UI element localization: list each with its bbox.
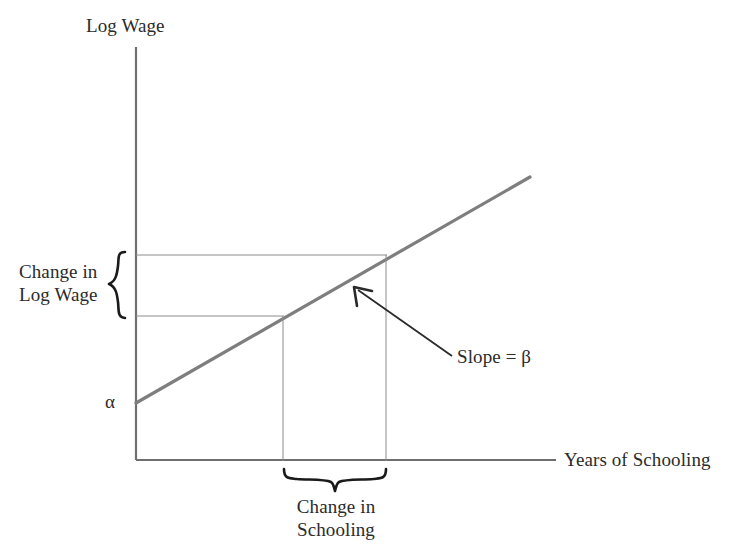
rise-brace — [109, 252, 125, 318]
y-axis-title: Log Wage — [86, 14, 165, 37]
diagram-svg — [0, 0, 737, 555]
change-in-schooling-label: Change in Schooling — [272, 495, 400, 541]
intercept-alpha-label: α — [105, 390, 115, 413]
change-in-log-wage-line-2: Log Wage — [19, 283, 98, 306]
change-in-log-wage-label: Change in Log Wage — [19, 260, 98, 306]
change-in-schooling-line-1: Change in — [272, 495, 400, 518]
change-in-schooling-line-2: Schooling — [272, 518, 400, 541]
slope-beta-label: Slope = β — [457, 345, 531, 368]
regression-diagram-canvas: Log Wage Years of Schooling α Slope = β … — [0, 0, 737, 555]
change-in-log-wage-line-1: Change in — [19, 260, 98, 283]
run-brace — [284, 469, 386, 491]
slope-pointer-line — [358, 290, 452, 356]
x-axis-title: Years of Schooling — [564, 448, 711, 471]
regression-line — [136, 177, 530, 403]
slope-pointer-arrowhead — [354, 287, 372, 306]
